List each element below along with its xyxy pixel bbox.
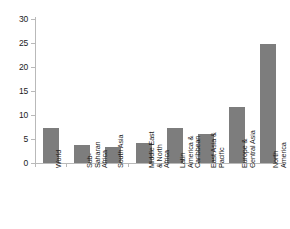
x-tick-label: North America	[272, 110, 287, 168]
x-tick-mark	[35, 163, 36, 167]
y-tick-label: 5	[6, 135, 28, 144]
y-tick-label: 0	[6, 159, 28, 168]
y-tick-label: 30	[6, 15, 28, 24]
y-tick-label: 25	[6, 39, 28, 48]
x-tick-label: Europe & Central Asia	[241, 110, 256, 168]
y-tick-label: 15	[6, 87, 28, 96]
y-tick-label: 10	[6, 111, 28, 120]
x-tick-mark	[66, 163, 67, 167]
x-tick-label: Latin America & Caribbean	[179, 110, 202, 168]
bar-chart: 051015202530 WorldSub- Saharan AfricaSou…	[0, 0, 290, 229]
x-tick-label: East Asia & Pacific	[210, 110, 225, 168]
x-tick-label: World	[55, 110, 63, 168]
x-tick-label: Middle East & North Africa	[148, 110, 171, 168]
x-tick-label: Sub- Saharan Africa	[86, 110, 109, 168]
x-tick-mark	[128, 163, 129, 167]
y-tick-label: 20	[6, 63, 28, 72]
x-tick-label: South Asia	[117, 110, 125, 168]
